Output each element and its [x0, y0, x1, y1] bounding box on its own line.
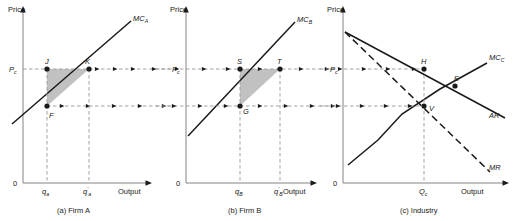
- point-e-marker: [421, 103, 426, 108]
- point-t-label: T: [277, 57, 283, 66]
- panel-a-x-axis-label: Output: [118, 187, 141, 196]
- panel-b-x-axis-arrow: [311, 180, 318, 186]
- point-k-marker: [86, 66, 91, 71]
- point-j-label: J: [44, 57, 49, 66]
- panel-a-xtick-qa-prime: q'a: [83, 186, 91, 197]
- panel-c-mr-curve: [345, 32, 490, 172]
- point-f-label: F: [49, 111, 54, 120]
- panel-b-price-tick-label: Pc: [172, 65, 180, 75]
- panel-a: Price Output 0 MCA: [8, 5, 170, 215]
- panel-c-mr-label: MR: [489, 163, 501, 172]
- point-s-marker: [237, 66, 242, 71]
- panel-c-xtick-qc: Qc: [419, 187, 428, 197]
- panel-c-caption: (c) Industry: [400, 206, 438, 215]
- panel-b-mc-label: MCB: [297, 15, 313, 25]
- point-e-label: V: [429, 104, 435, 113]
- point-f-marker: [44, 103, 49, 108]
- panel-b-xtick-qb-prime: q'B: [274, 186, 283, 197]
- panel-a-caption: (a) Firm A: [57, 206, 90, 215]
- panel-c-x-axis-arrow: [503, 180, 510, 186]
- point-h-label: H: [421, 57, 427, 66]
- point-v-marker: [452, 83, 457, 88]
- panel-c: Price Output 0 AR MR MCC: [320, 5, 509, 215]
- point-k-label: K: [85, 57, 91, 66]
- panel-a-mc-curve: [12, 21, 131, 124]
- point-s-label: S: [237, 57, 242, 66]
- panel-a-price-tick-label: Pc: [9, 65, 17, 75]
- panel-b-mc-curve: [188, 22, 295, 136]
- panel-a-mc-label: MCA: [133, 14, 149, 24]
- panel-c-x-axis-label: Output: [461, 187, 484, 196]
- panel-a-x-axis-arrow: [146, 180, 153, 186]
- panel-a-xtick-qa: qa: [42, 187, 49, 197]
- three-panel-economics-figure: Price Output 0 MCA: [0, 0, 515, 221]
- panel-b: Price Output 0 MCB: [156, 5, 336, 215]
- panel-c-origin-label: 0: [333, 179, 337, 188]
- point-j-marker: [44, 66, 49, 71]
- panel-c-ar-label: AR: [488, 111, 500, 120]
- point-h-marker: [421, 66, 426, 71]
- panel-b-xtick-qb: qB: [235, 187, 243, 197]
- panel-c-price-tick-label: Pc: [330, 65, 338, 75]
- panel-c-mc-label: MCC: [489, 53, 505, 63]
- point-g-label: G: [243, 107, 249, 116]
- point-t-marker: [277, 66, 282, 71]
- panel-b-origin-label: 0: [176, 179, 180, 188]
- panel-b-x-axis-label: Output: [283, 187, 306, 196]
- panel-b-caption: (b) Firm B: [228, 206, 261, 215]
- point-g-marker: [237, 103, 242, 108]
- panel-a-origin-label: 0: [13, 179, 17, 188]
